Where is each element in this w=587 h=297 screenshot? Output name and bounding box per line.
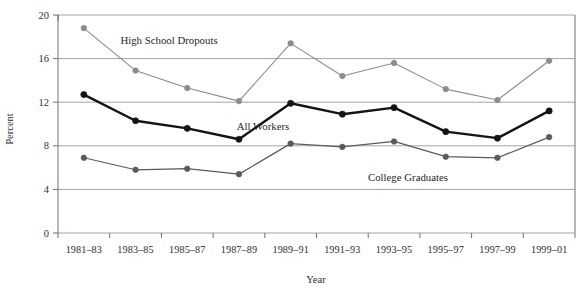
series-marker [132,118,138,124]
series-marker [443,154,449,160]
series-marker [81,155,87,161]
chart-canvas: 048121620 1981–831983–851985–871987–8919… [0,0,587,297]
series-marker [236,98,242,104]
y-tick-label: 0 [44,228,49,239]
x-tick-label: 1981–83 [66,244,102,255]
series-marker [184,85,190,91]
series-marker [133,68,139,74]
series-marker [81,25,87,31]
x-tick-label: 1993–95 [376,244,412,255]
series-marker [236,136,242,142]
series-marker [288,41,294,47]
series-marker [339,111,345,117]
series-annotation: All Workers [237,120,290,132]
series-marker [495,97,501,103]
series-marker [391,139,397,145]
x-tick-label: 1997–99 [479,244,515,255]
series-marker [546,58,552,64]
y-tick-label: 12 [39,97,50,108]
y-tick-label: 8 [44,140,49,151]
line-chart: 048121620 1981–831983–851985–871987–8919… [0,0,587,297]
x-tick-label: 1989–91 [272,244,308,255]
series-marker [495,155,501,161]
y-tick-label: 16 [39,53,50,64]
series-marker [494,135,500,141]
series-marker [443,86,449,92]
x-tick-label: 1999–01 [531,244,567,255]
series-marker [184,166,190,172]
x-axis-title: Year [306,274,326,285]
series-marker [391,105,397,111]
series-marker [288,100,294,106]
x-tick-label: 1983–85 [117,244,153,255]
x-tick-label: 1995–97 [428,244,464,255]
series-marker [391,60,397,66]
series-marker [340,73,346,79]
x-tick-label: 1991–93 [324,244,360,255]
series-marker [340,144,346,150]
series-marker [546,108,552,114]
series-annotation: High School Dropouts [120,34,217,46]
series-marker [81,91,87,97]
y-tick-label: 4 [44,184,50,195]
series-marker [236,171,242,177]
x-tick-label: 1987–89 [221,244,257,255]
series-marker [184,125,190,131]
y-axis-title: Percent [4,113,15,145]
series-marker [546,134,552,140]
series-marker [288,141,294,147]
series-annotation: College Graduates [368,171,448,183]
y-tick-label: 20 [39,10,50,21]
series-marker [133,167,139,173]
x-tick-label: 1985–87 [169,244,205,255]
series-marker [443,129,449,135]
